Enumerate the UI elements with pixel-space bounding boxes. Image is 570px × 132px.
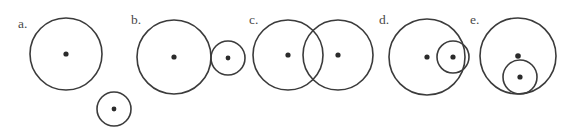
panel-label-a: a. (18, 16, 27, 31)
panel-c-right-circle-center-dot (335, 52, 340, 57)
panel-c: c. (249, 12, 373, 90)
panel-a: a. (18, 16, 131, 126)
panel-e: e. (470, 12, 556, 94)
panel-e-inner-circle-center-dot (517, 74, 522, 79)
panel-c-left-circle-center-dot (285, 52, 290, 57)
panel-d-inner-circle-center-dot (450, 54, 455, 59)
panel-label-b: b. (131, 12, 141, 27)
panel-label-e: e. (470, 12, 479, 27)
panel-label-c: c. (249, 12, 258, 27)
figure-canvas: a.b.c.d.e. (0, 0, 570, 132)
panel-d-large-circle-center-dot (424, 54, 429, 59)
panel-label-d: d. (379, 12, 389, 27)
panel-d: d. (379, 12, 469, 95)
panel-b: b. (131, 12, 245, 94)
panel-a-large-circle-center-dot (63, 51, 68, 56)
panel-a-small-circle-center-dot (112, 107, 117, 112)
panel-e-large-circle-center-dot (515, 53, 521, 59)
panel-b-small-circle-center-dot (226, 56, 231, 61)
panel-b-large-circle-center-dot (171, 54, 176, 59)
circle-relations-figure: a.b.c.d.e. (0, 0, 570, 132)
